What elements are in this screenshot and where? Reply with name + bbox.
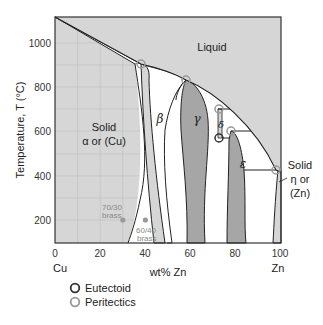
legend-eutectoid-label: Eutectoid [85, 282, 131, 294]
eta-label-2: η or [291, 173, 310, 185]
eta-label-1: Solid [288, 159, 312, 171]
x-axis: 0 20 40 60 80 100 Cu Zn wt% Zn [52, 248, 289, 278]
brass-70-30-label-2: brass [102, 211, 122, 220]
eta-label-3: (Zn) [290, 187, 310, 199]
delta-label: δ [218, 119, 224, 130]
beta-label: β [156, 112, 164, 126]
x-end-zn: Zn [272, 262, 285, 274]
x-tick: 40 [139, 248, 151, 259]
brass-60-40-label-2: brass [137, 234, 157, 243]
x-tick: 80 [229, 248, 241, 259]
y-tick: 400 [34, 171, 51, 182]
phase-diagram: 70/30 brass 60/40 brass Liquid Solid α o… [0, 0, 323, 325]
x-tick: 0 [52, 248, 58, 259]
x-end-cu: Cu [53, 262, 67, 274]
y-tick: 600 [34, 126, 51, 137]
x-axis-label: wt% Zn [149, 266, 187, 278]
alpha-label-1: Solid [92, 121, 116, 133]
eutectoid-legend-icon [71, 284, 80, 293]
brass-60-40-dot [143, 217, 148, 222]
y-tick: 800 [34, 82, 51, 93]
gamma-label: γ [193, 112, 201, 126]
y-tick: 200 [34, 215, 51, 226]
liquid-label: Liquid [197, 41, 226, 53]
legend-peritectic-label: Peritectics [85, 296, 136, 308]
epsilon-label: ε [240, 157, 246, 171]
peritectic-legend-icon [71, 298, 80, 307]
alpha-label-2: α or (Cu) [82, 135, 126, 147]
y-axis: 200 400 600 800 1000 Temperature, T (°C) [14, 38, 51, 226]
legend: Eutectoid Peritectics [71, 282, 137, 308]
x-tick: 20 [94, 248, 106, 259]
x-tick: 60 [184, 248, 196, 259]
y-axis-label: Temperature, T (°C) [14, 82, 26, 179]
y-tick: 1000 [29, 38, 52, 49]
x-tick: 100 [272, 248, 289, 259]
